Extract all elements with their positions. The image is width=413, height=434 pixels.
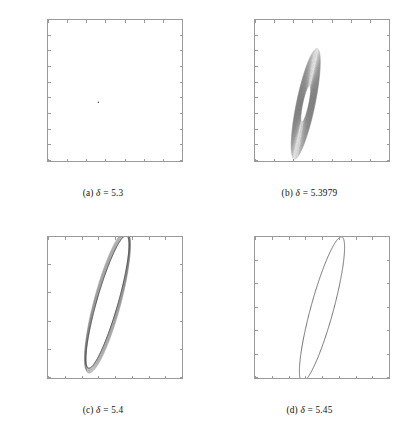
ytick-mark [387, 82, 390, 83]
xtick-mark [48, 159, 49, 162]
xtick-mark [274, 20, 275, 23]
ytick-mark [48, 129, 51, 130]
panel-c: 2.1252.132.1352.142.1452.151.571.581.591… [0, 217, 206, 434]
xtick-mark [132, 376, 133, 379]
xtick-mark [115, 237, 116, 240]
ytick-mark [48, 349, 51, 350]
xtick-mark [125, 159, 126, 162]
ytick-mark [180, 50, 183, 51]
ytick-mark [180, 292, 183, 293]
ytick-mark [48, 113, 51, 114]
ytick-mark [387, 260, 390, 261]
xtick-mark [163, 159, 164, 162]
xtick-mark [339, 237, 340, 240]
ytick-mark [387, 35, 390, 36]
xtick-mark [82, 237, 83, 240]
xtick-mark [65, 237, 66, 240]
panel-b: 2.1322.1342.1362.1382.142.1422.1442.1462… [206, 0, 413, 217]
caption-c-prefix: (c) [83, 405, 94, 415]
xtick-mark [312, 20, 313, 23]
ytick-mark [180, 264, 183, 265]
xtick-mark [115, 376, 116, 379]
ytick-mark [48, 321, 51, 322]
caption-a-symbol: δ [96, 188, 101, 198]
ytick-mark [255, 113, 258, 114]
ytick-mark [48, 144, 51, 145]
xtick-mark [289, 237, 290, 240]
xtick-mark [312, 159, 313, 162]
ytick-mark [48, 82, 51, 83]
ytick-mark [255, 97, 258, 98]
panel-a: 2.1322.1342.1362.1382.142.1422.1442.1462… [0, 0, 206, 217]
xtick-mark [370, 20, 371, 23]
plot-area-a: 2.1322.1342.1362.1382.142.1422.1442.1462… [47, 19, 183, 162]
xtick-mark [305, 237, 306, 240]
xtick-mark [293, 20, 294, 23]
phase-plot-a [48, 20, 182, 161]
caption-b-prefix: (b) [282, 188, 293, 198]
ytick-mark [255, 35, 258, 36]
xtick-mark [86, 20, 87, 23]
xtick-mark [370, 159, 371, 162]
xtick-mark [144, 20, 145, 23]
ytick-mark [387, 66, 390, 67]
xtick-mark [163, 20, 164, 23]
ytick-mark [387, 283, 390, 284]
plot-area-d: 2.082.12.122.142.162.182.21.41.451.51.55… [254, 236, 390, 379]
ytick-mark [387, 330, 390, 331]
phase-plot-c [48, 237, 182, 378]
ytick-mark [180, 35, 183, 36]
ytick-mark [180, 144, 183, 145]
ytick-mark [387, 307, 390, 308]
phase-plot-d [255, 237, 389, 378]
xtick-mark [149, 237, 150, 240]
xtick-mark [182, 20, 183, 23]
ytick-mark [255, 144, 258, 145]
xtick-mark [322, 376, 323, 379]
xtick-mark [272, 237, 273, 240]
caption-a-prefix: (a) [83, 188, 94, 198]
xtick-mark [322, 237, 323, 240]
ytick-mark [255, 82, 258, 83]
caption-a: (a) δ = 5.3 [0, 188, 206, 198]
ytick-mark [255, 50, 258, 51]
xtick-mark [182, 237, 183, 240]
caption-c-symbol: δ [96, 405, 101, 415]
ytick-mark [255, 66, 258, 67]
xtick-mark [372, 237, 373, 240]
caption-c-value: 5.4 [111, 405, 123, 415]
xtick-mark [67, 20, 68, 23]
ytick-mark [48, 50, 51, 51]
xtick-mark [48, 237, 49, 240]
caption-b: (b) δ = 5.3979 [206, 188, 413, 198]
xtick-mark [144, 159, 145, 162]
xtick-mark [82, 376, 83, 379]
caption-c: (c) δ = 5.4 [0, 405, 206, 415]
xtick-mark [339, 376, 340, 379]
ytick-mark [48, 35, 51, 36]
xtick-mark [149, 376, 150, 379]
xtick-mark [332, 20, 333, 23]
caption-d-prefix: (d) [286, 405, 297, 415]
xtick-mark [332, 159, 333, 162]
xtick-mark [98, 376, 99, 379]
xtick-mark [305, 376, 306, 379]
xtick-mark [293, 159, 294, 162]
xtick-mark [289, 376, 290, 379]
caption-d-value: 5.45 [315, 405, 332, 415]
xtick-mark [132, 237, 133, 240]
xtick-mark [255, 159, 256, 162]
panel-d: 2.082.12.122.142.162.182.21.41.451.51.55… [206, 217, 413, 434]
ytick-mark [255, 283, 258, 284]
phase-plot-b [255, 20, 389, 161]
xtick-mark [255, 376, 256, 379]
xtick-mark [389, 376, 390, 379]
xtick-mark [165, 237, 166, 240]
xtick-mark [389, 159, 390, 162]
ytick-mark [180, 321, 183, 322]
xtick-mark [272, 376, 273, 379]
ytick-mark [255, 330, 258, 331]
caption-d-symbol: δ [300, 405, 305, 415]
xtick-mark [351, 20, 352, 23]
ytick-mark [255, 260, 258, 261]
